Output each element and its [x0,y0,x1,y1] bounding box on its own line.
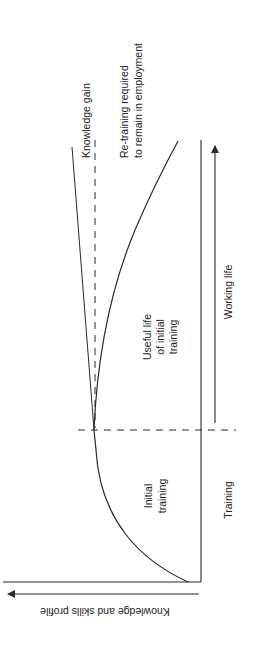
retraining-label-line1: Re-training required [118,65,130,158]
retraining-curve [94,141,178,430]
knowledge-gain-label: Knowledge gain [80,83,92,158]
training-knowledge-diagram: Knowledge gain Re-training required to r… [0,0,259,659]
useful-life-label-line3: training [167,320,179,355]
knowledge-skills-axis-label: Knowledge and skills profile [40,606,170,618]
working-life-label: Working life [222,265,234,320]
useful-life-label-line2: of initial [154,319,166,355]
initial-training-label-line1: Initial [142,484,154,509]
retraining-label-line2: to remain in employment [132,43,144,158]
knowledge-gain-line [72,147,94,430]
initial-training-curve [94,430,188,582]
initial-training-label-line2: training [156,479,168,514]
useful-life-label-line1: Useful life [141,314,153,360]
training-label: Training [222,481,234,519]
